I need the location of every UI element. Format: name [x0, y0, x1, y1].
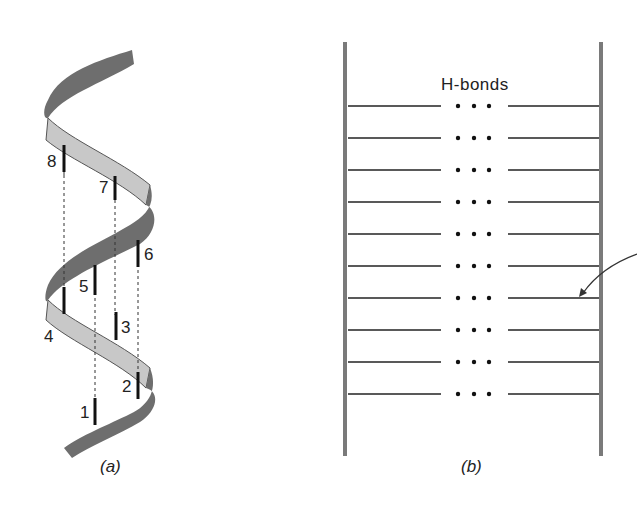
panel-a-caption: (a): [100, 457, 121, 476]
residue-label-5: 5: [79, 277, 88, 296]
pointer-arrow-icon: [583, 254, 637, 293]
residue-label-8: 8: [47, 152, 56, 171]
residue-label-7: 7: [99, 178, 108, 197]
helix-front-segment-top: [44, 50, 134, 118]
h-bonds-title: H-bonds: [441, 75, 509, 94]
panel-b-caption: (b): [461, 457, 482, 476]
residue-label-3: 3: [121, 318, 130, 337]
residue-label-6: 6: [144, 245, 153, 264]
residue-label-1: 1: [80, 403, 89, 422]
figure-canvas: 1 2 3 4 5 6 7 8 (a) H-bonds: [0, 0, 637, 508]
beta-sheet-ladder-diagram: H-bonds (b): [343, 42, 637, 476]
left-strand: [343, 42, 347, 456]
rungs: [348, 106, 599, 394]
helix-back-segment-lower: [46, 300, 150, 388]
h-bond-dots: [456, 104, 491, 396]
right-strand: [599, 42, 603, 456]
residue-label-4: 4: [44, 327, 53, 346]
helix-back-segment-upper: [46, 118, 150, 205]
alpha-helix-diagram: 1 2 3 4 5 6 7 8 (a): [44, 50, 155, 476]
residue-label-2: 2: [122, 377, 131, 396]
